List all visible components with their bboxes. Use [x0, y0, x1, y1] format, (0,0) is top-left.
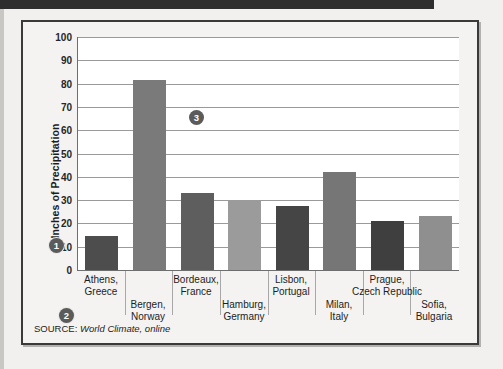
x-axis-label-line: Bulgaria: [386, 311, 482, 323]
gridline: [78, 60, 459, 61]
source-value: World Climate, online: [80, 323, 170, 334]
x-axis-label-line: Czech Republic: [339, 286, 435, 298]
source-label: SOURCE:: [34, 323, 77, 334]
x-axis-label-line: Norway: [100, 311, 196, 323]
scan-top-band: [0, 0, 503, 9]
x-axis-label: Bordeaux,France: [148, 274, 244, 297]
plot-area: 0102030405060708090100: [77, 37, 459, 271]
y-tick-label: 20: [61, 218, 72, 229]
y-tick-label: 60: [61, 125, 72, 136]
bar[interactable]: [371, 221, 404, 270]
x-axis-label: Athens,Greece: [53, 274, 149, 297]
x-axis-label: Sofia,Bulgaria: [386, 299, 482, 322]
bar[interactable]: [276, 206, 309, 270]
x-axis-label-line: Lisbon,: [275, 274, 307, 285]
x-axis-label-line: Portugal: [243, 286, 339, 298]
scan-page: Inches of Precipitation 0102030405060708…: [0, 0, 503, 369]
x-axis-label-line: Greece: [53, 286, 149, 298]
x-axis-label-line: Bordeaux,: [173, 274, 219, 285]
x-axis-label: Milan,Italy: [291, 299, 387, 322]
y-tick-label: 80: [61, 78, 72, 89]
x-axis-label-line: France: [148, 286, 244, 298]
x-axis-label-line: Italy: [291, 311, 387, 323]
bar[interactable]: [419, 216, 452, 270]
scan-left-edge: [0, 9, 4, 369]
y-tick-label: 50: [61, 148, 72, 159]
y-tick-label: 90: [61, 55, 72, 66]
bar[interactable]: [228, 200, 261, 270]
scan-top-band-gap: [434, 0, 503, 9]
x-axis-label: Prague,Czech Republic: [339, 274, 435, 297]
y-tick-label: 70: [61, 101, 72, 112]
x-axis-label-line: Germany: [196, 311, 292, 323]
x-axis-label-line: Sofia,: [421, 299, 447, 310]
x-axis-label-line: Bergen,: [130, 299, 165, 310]
x-axis-label: Hamburg,Germany: [196, 299, 292, 322]
bar[interactable]: [133, 80, 166, 270]
chart-figure: Inches of Precipitation 0102030405060708…: [21, 20, 479, 345]
bar[interactable]: [85, 236, 118, 270]
source-note: SOURCE: World Climate, online: [34, 323, 170, 334]
bar[interactable]: [323, 172, 356, 270]
x-axis-label-line: Prague,: [369, 274, 404, 285]
y-axis-title-text: Inches of Precipitation: [49, 123, 61, 238]
callout-badge-2[interactable]: 2: [59, 308, 74, 323]
callout-badge-1[interactable]: 1: [49, 238, 64, 253]
callout-badge-3[interactable]: 3: [189, 110, 204, 125]
x-axis-label-line: Athens,: [84, 274, 118, 285]
x-axis-label-line: Milan,: [326, 299, 353, 310]
x-axis-label: Bergen,Norway: [100, 299, 196, 322]
bar[interactable]: [181, 193, 214, 270]
gridline: [78, 37, 459, 38]
y-tick-label: 40: [61, 171, 72, 182]
x-axis-label: Lisbon,Portugal: [243, 274, 339, 297]
y-tick-label: 100: [55, 32, 72, 43]
y-tick-label: 30: [61, 195, 72, 206]
x-axis-label-line: Hamburg,: [222, 299, 266, 310]
